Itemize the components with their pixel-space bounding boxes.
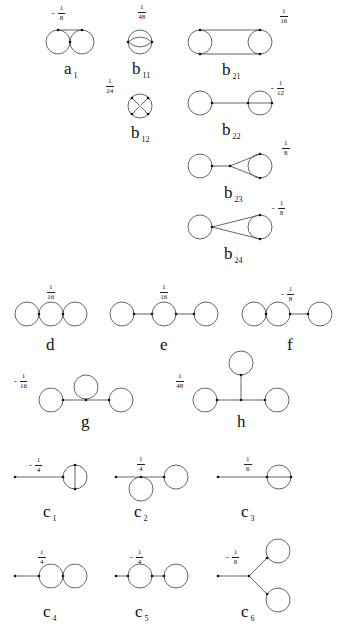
label-base: d: [46, 335, 55, 354]
denominator: 16: [47, 293, 54, 301]
graph-h: [193, 351, 289, 412]
denominator: 16: [280, 17, 287, 25]
label-b22: b22: [222, 121, 241, 141]
coefficient-sign: -: [130, 554, 133, 562]
numerator: 1: [280, 8, 288, 17]
label-c3: c3: [241, 503, 255, 523]
fraction: 14: [137, 456, 145, 473]
fraction: 112: [277, 80, 285, 97]
numerator: 1: [277, 80, 285, 89]
numerator: 1: [244, 456, 252, 465]
label-base: c: [43, 602, 51, 621]
fraction: 18: [278, 200, 286, 217]
label-subscript: 24: [235, 256, 243, 265]
fraction: 14: [136, 549, 144, 566]
numerator: 1: [287, 286, 295, 295]
label-g: g: [81, 413, 92, 433]
label-b12: b12: [131, 124, 150, 144]
coefficient-h: 148: [173, 373, 184, 390]
coefficient-c4: 14: [35, 549, 46, 566]
denominator: 16: [20, 382, 27, 390]
numerator: 1: [278, 200, 286, 209]
numerator: 1: [136, 549, 144, 558]
denominator: 8: [60, 14, 64, 22]
denominator: 4: [40, 558, 44, 566]
label-base: b: [222, 60, 231, 79]
numerator: 1: [38, 549, 46, 558]
label-f: f: [287, 336, 295, 356]
label-b24: b24: [224, 245, 243, 265]
coefficient-c1: -14: [29, 457, 42, 474]
label-base: h: [237, 412, 246, 431]
denominator: 4: [37, 466, 41, 474]
label-b11: b11: [132, 60, 150, 80]
fraction: 116: [20, 373, 28, 390]
label-subscript: 2: [144, 514, 148, 523]
graph-a1: [46, 29, 94, 54]
label-subscript: 11: [143, 71, 151, 80]
coefficient-b11: 148: [135, 4, 146, 21]
label-base: e: [160, 335, 168, 354]
numerator: 1: [138, 4, 146, 13]
graph-c2: [115, 465, 188, 501]
label-c1: c1: [43, 503, 57, 523]
numerator: 1: [20, 373, 28, 382]
fraction: 14: [38, 549, 46, 566]
label-e: e: [160, 336, 170, 356]
denominator: 16: [160, 293, 167, 301]
label-h: h: [237, 413, 248, 433]
coefficient-sign: -: [272, 205, 275, 213]
label-base: b: [222, 120, 231, 139]
graph-e: [110, 302, 218, 326]
label-subscript: 4: [53, 614, 57, 623]
fraction: 116: [47, 284, 55, 301]
graph-b24: [188, 214, 272, 241]
graph-d: [15, 302, 87, 326]
denominator: 12: [277, 89, 284, 97]
fraction: 14: [35, 457, 43, 474]
denominator: 8: [284, 149, 288, 157]
label-subscript: 3: [251, 514, 255, 523]
coefficient-b24: -18: [272, 200, 285, 217]
coefficient-c3: 16: [241, 456, 252, 473]
numerator: 1: [176, 373, 184, 382]
label-base: c: [241, 502, 249, 521]
fraction: 124: [106, 78, 114, 95]
label-subscript: 12: [142, 135, 150, 144]
coefficient-e: 116: [157, 284, 168, 301]
numerator: 1: [282, 140, 290, 149]
label-base: c: [43, 502, 51, 521]
label-base: c: [135, 602, 143, 621]
coefficient-f: -18: [281, 286, 294, 303]
label-b23: b23: [224, 184, 243, 204]
label-subscript: 23: [235, 195, 243, 204]
label-c6: c6: [241, 603, 255, 623]
label-base: c: [134, 502, 142, 521]
label-c5: c5: [135, 603, 149, 623]
graph-g: [39, 375, 133, 412]
numerator: 1: [35, 457, 43, 466]
label-b21: b21: [222, 61, 241, 81]
label-base: f: [287, 335, 293, 354]
denominator: 24: [106, 87, 113, 95]
label-subscript: 22: [233, 132, 241, 141]
fraction: 18: [58, 5, 66, 22]
graph-b12: [128, 94, 152, 118]
coefficient-sign: -: [29, 462, 32, 470]
numerator: 1: [58, 5, 66, 14]
coefficient-sign: -: [14, 378, 17, 386]
numerator: 1: [137, 456, 145, 465]
denominator: 4: [139, 465, 143, 473]
coefficient-a1: -18: [52, 5, 65, 22]
graph-c5: [115, 564, 188, 588]
label-base: b: [224, 244, 233, 263]
coefficient-b21: 116: [277, 8, 288, 25]
label-base: c: [241, 602, 249, 621]
label-c2: c2: [134, 503, 148, 523]
coefficient-sign: -: [271, 85, 274, 93]
denominator: 48: [138, 13, 145, 21]
fraction: 116: [160, 284, 168, 301]
numerator: 1: [160, 284, 168, 293]
numerator: 1: [232, 549, 240, 558]
denominator: 8: [289, 295, 293, 303]
